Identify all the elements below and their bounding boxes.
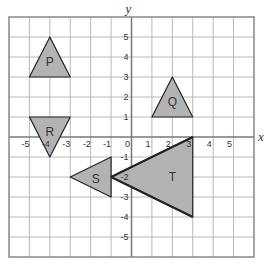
x-tick-label: -4 [42,139,50,149]
y-tick-label: 5 [123,32,128,42]
y-tick-label: -1 [120,152,128,162]
x-tick-label: -2 [83,139,91,149]
y-tick-label: 2 [123,92,128,102]
y-tick-label: 1 [123,112,128,122]
x-tick-label: -3 [62,139,70,149]
coordinate-grid-diagram: PQRST -5-4-3-2-101234554321-1-2-3-4-5 x … [0,0,268,266]
x-tick-label: 3 [186,139,191,149]
y-tick-label: -2 [120,172,128,182]
x-tick-label: -5 [21,139,29,149]
y-axis-label: y [124,1,132,16]
y-tick-label: -4 [120,212,128,222]
shape-label-p: P [46,55,54,69]
shape-label-s: S [92,172,100,186]
x-tick-label: 5 [227,139,232,149]
shape-label-q: Q [168,95,177,109]
x-tick-label: 0 [125,139,130,149]
x-axis-label: x [257,129,264,144]
y-tick-label: 3 [123,72,128,82]
y-tick-label: -5 [120,232,128,242]
x-tick-label: 4 [207,139,212,149]
shape-label-t: T [169,170,177,184]
x-tick-label: 1 [145,139,150,149]
x-tick-label: -1 [103,139,111,149]
y-tick-label: -3 [120,192,128,202]
shape-label-r: R [45,125,54,139]
y-tick-label: 4 [123,52,128,62]
x-tick-label: 2 [166,139,171,149]
